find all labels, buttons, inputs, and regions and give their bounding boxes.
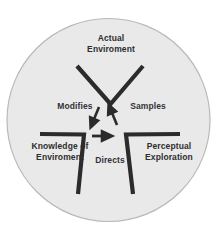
diagram-canvas: Actual Enviroment Knowledge of Enviromen…: [0, 0, 222, 232]
diagram-graphics: [0, 0, 222, 232]
outer-circle: [7, 19, 210, 222]
